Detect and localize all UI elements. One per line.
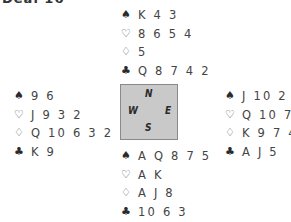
spade-icon: ♠ [14, 87, 31, 106]
south-hand: ♠ A Q 8 7 5 ♡ A K ♢ A J 8 ♣ 10 6 3 [121, 147, 211, 221]
heart-icon: ♡ [225, 106, 242, 125]
deal-title: Deal 16 [2, 0, 64, 6]
north-diamonds: ♢ 5 [121, 43, 211, 62]
heart-icon: ♡ [121, 166, 138, 185]
compass-north: N [145, 88, 153, 99]
compass-east: E [165, 105, 171, 116]
diamond-icon: ♢ [121, 184, 138, 203]
west-hearts: ♡ J 9 3 2 [14, 106, 113, 125]
west-diamonds: ♢ Q 10 6 3 2 [14, 124, 113, 143]
south-diamonds: ♢ A J 8 [121, 184, 211, 203]
east-clubs: ♣ A J 5 [225, 143, 291, 162]
heart-icon: ♡ [14, 106, 31, 125]
compass-box: N W E S [120, 84, 178, 140]
club-icon: ♣ [14, 143, 31, 162]
west-spades: ♠ 9 6 [14, 87, 113, 106]
spade-icon: ♠ [121, 6, 138, 25]
spade-icon: ♠ [225, 87, 242, 106]
club-icon: ♣ [121, 62, 138, 81]
south-clubs: ♣ 10 6 3 [121, 203, 211, 222]
north-hearts: ♡ 8 6 5 4 [121, 25, 211, 44]
north-spades: ♠ K 4 3 [121, 6, 211, 25]
club-icon: ♣ [225, 143, 242, 162]
club-icon: ♣ [121, 203, 138, 222]
diamond-icon: ♢ [225, 124, 242, 143]
diamond-icon: ♢ [121, 43, 138, 62]
compass-south: S [145, 122, 151, 133]
south-spades: ♠ A Q 8 7 5 [121, 147, 211, 166]
south-hearts: ♡ A K [121, 166, 211, 185]
north-hand: ♠ K 4 3 ♡ 8 6 5 4 ♢ 5 ♣ Q 8 7 4 2 [121, 6, 211, 80]
east-hand: ♠ J 10 2 ♡ Q 10 7 ♢ K 9 7 4 ♣ A J 5 [225, 87, 291, 161]
heart-icon: ♡ [121, 25, 138, 44]
spade-icon: ♠ [121, 147, 138, 166]
east-hearts: ♡ Q 10 7 [225, 106, 291, 125]
north-clubs: ♣ Q 8 7 4 2 [121, 62, 211, 81]
west-hand: ♠ 9 6 ♡ J 9 3 2 ♢ Q 10 6 3 2 ♣ K 9 [14, 87, 113, 161]
west-clubs: ♣ K 9 [14, 143, 113, 162]
compass-west: W [128, 105, 138, 116]
east-spades: ♠ J 10 2 [225, 87, 291, 106]
east-diamonds: ♢ K 9 7 4 [225, 124, 291, 143]
diamond-icon: ♢ [14, 124, 31, 143]
